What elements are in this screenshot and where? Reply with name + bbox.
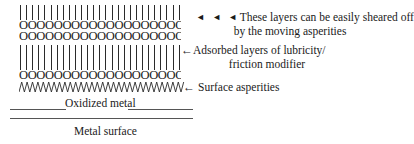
adsorbed-text-line2: friction modifier: [181, 58, 391, 72]
annotation-surface-asperities: ←Surface asperities: [183, 81, 279, 95]
oxide-rule-right: [128, 109, 193, 110]
circle-row-2: OOOOOOOOOOOOOOOOOOOOOOOOOOO: [19, 31, 181, 42]
circle-row-1: OOOOOOOOOOOOOOOOOOOOOOOOOOO: [19, 20, 181, 31]
annotation-shear: ◄ ◄ ◄These layers can be easily sheared …: [196, 11, 390, 38]
oxide-rule-left: [10, 109, 66, 110]
circle-row-3: OOOOOOOOOOOOOOOOOOOOOOOOOOO: [19, 70, 181, 81]
oxidized-metal-band: Oxidized metal: [10, 96, 193, 112]
metal-surface-rule: [10, 118, 193, 119]
oxidized-metal-label: Oxidized metal: [65, 96, 136, 110]
asperity-zigzag: [19, 81, 185, 94]
arrow-left-icon: ←: [181, 43, 193, 57]
annotation-adsorbed-layers: ←Adsorbed layers of lubricity/ friction …: [181, 44, 391, 71]
tick-row-bottom: [20, 45, 180, 70]
tick-row-top: [20, 5, 180, 20]
arrow-left-icon: ←: [183, 80, 195, 94]
shear-text-line2: by the moving asperities: [196, 25, 390, 39]
shear-text-line1: These layers can be easily sheared off: [240, 11, 414, 23]
zigzag-icon: [19, 81, 185, 94]
adsorbed-text-line1: Adsorbed layers of lubricity/: [193, 44, 326, 56]
shear-arrows-icon: ◄ ◄ ◄: [196, 12, 240, 22]
metal-surface-label: Metal surface: [74, 124, 137, 138]
surface-asperities-text: Surface asperities: [198, 81, 279, 93]
